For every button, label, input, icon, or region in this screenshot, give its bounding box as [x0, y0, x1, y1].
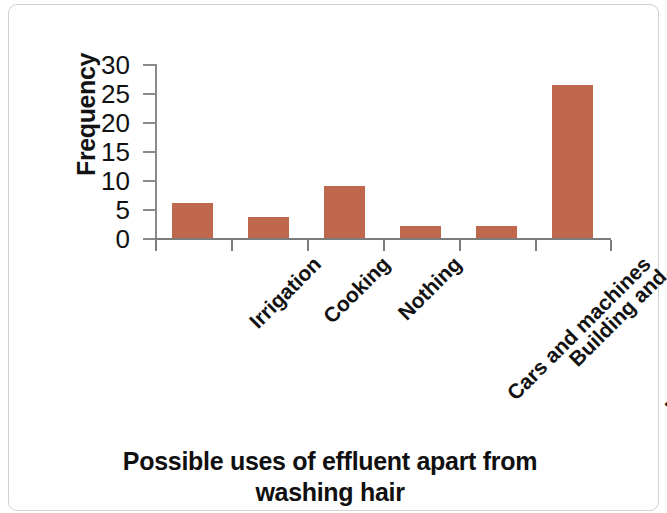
x-tick-mark-3: [383, 240, 385, 251]
bar-cars-and-machines: [400, 226, 441, 238]
bar-cooking: [248, 217, 289, 238]
x-tick-mark-6: [610, 240, 612, 251]
y-axis-line: [155, 64, 157, 239]
x-axis-title-line-1: Possible uses of effluent apart from: [60, 446, 600, 477]
x-axis-line: [143, 238, 611, 240]
y-tick-label-20: 20: [78, 110, 130, 136]
bar-building-and: [476, 226, 517, 238]
y-tick-mark-10: [143, 180, 155, 182]
x-tick-mark-5: [535, 240, 537, 251]
bar-irrigation: [172, 203, 213, 238]
y-tick-mark-25: [143, 93, 155, 95]
bar-chart: Frequency 30 25 20 15 10 5 0: [0, 0, 667, 513]
y-tick-mark-20: [143, 122, 155, 124]
x-category-label-irrigation: Irrigation: [245, 252, 326, 333]
x-category-label-cars-and-machines: Cars and machines: [502, 252, 655, 405]
y-tick-mark-0: [143, 238, 155, 240]
bar-nothing: [324, 186, 365, 238]
y-tick-label-15: 15: [78, 139, 130, 165]
bar-flushing-and-laundry: [552, 85, 593, 238]
x-axis-title: Possible uses of effluent apart from was…: [60, 446, 600, 509]
x-tick-mark-4: [459, 240, 461, 251]
y-tick-mark-30: [143, 64, 155, 66]
y-tick-label-25: 25: [78, 81, 130, 107]
y-tick-mark-15: [143, 151, 155, 153]
y-tick-label-30: 30: [78, 52, 130, 78]
x-tick-mark-2: [307, 240, 309, 251]
x-category-label-nothing: Nothing: [393, 252, 466, 325]
x-category-label-cooking: Cooking: [319, 252, 395, 328]
y-tick-label-5: 5: [78, 197, 130, 223]
x-axis-title-line-2: washing hair: [60, 477, 600, 508]
y-tick-label-10: 10: [78, 168, 130, 194]
x-tick-mark-0: [155, 240, 157, 251]
y-tick-label-0: 0: [78, 226, 130, 252]
y-tick-mark-5: [143, 209, 155, 211]
x-tick-mark-1: [231, 240, 233, 251]
